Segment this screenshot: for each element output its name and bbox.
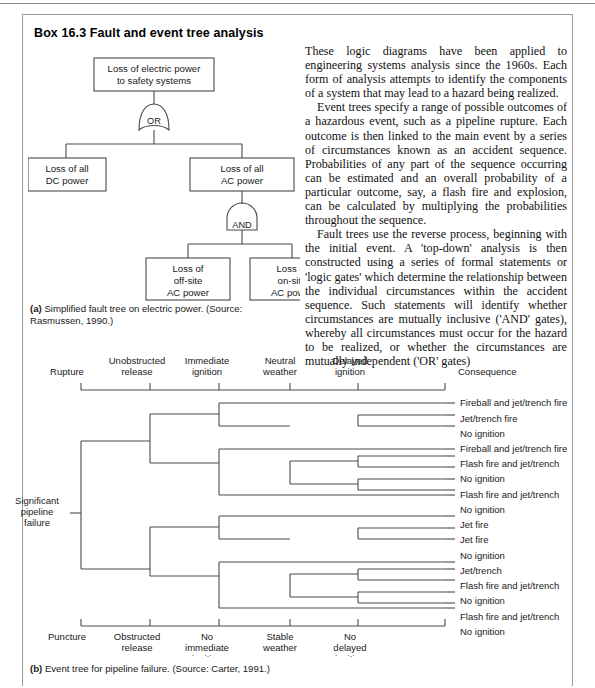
event-tree-bottom-heading-2-line1: Obstructed: [114, 631, 160, 642]
event-tree-bottom-heading-4-line1: Stable: [267, 631, 294, 642]
event-tree-consequence-11: No ignition: [460, 550, 505, 561]
prose-paragraph-2: Event trees specify a range of possible …: [305, 100, 567, 227]
event-tree-bottom-heading-5-line1: No: [344, 631, 356, 642]
event-tree-top-scale: [81, 383, 445, 390]
figure-b-caption-text: Event tree for pipeline failure. (Source…: [45, 663, 270, 674]
fault-node-top-line1: Loss of electric power: [108, 63, 202, 74]
event-tree-consequence-15: Flash fire and jet/trench: [460, 611, 559, 622]
event-tree-bottom-heading-3-line2: immediate: [185, 642, 229, 653]
fault-node-offsite-line2: off-site: [174, 275, 203, 286]
event-tree-root-label-line2: pipeline: [21, 506, 54, 517]
top-rule: [0, 3, 595, 4]
fault-node-offsite-line1: Loss of: [173, 263, 204, 274]
event-tree-consequence-4: Fireball and jet/trench fire: [460, 443, 567, 454]
event-tree-bottom-heading-2-line2: release: [121, 642, 152, 653]
fault-node-onsite-line3: AC power: [271, 287, 300, 298]
event-tree-bottom-heading-3-line3: ignition: [192, 653, 222, 657]
figure-a-marker: (a): [30, 303, 42, 314]
figure-b-caption: (b) Event tree for pipeline failure. (So…: [30, 663, 450, 675]
and-gate-label: AND: [232, 220, 252, 230]
prose-column: These logic diagrams have been applied t…: [305, 44, 567, 368]
event-tree-consequence-5: Flash fire and jet/trench: [460, 458, 559, 469]
box-title: Box 16.3 Fault and event tree analysis: [34, 26, 264, 40]
event-tree-consequence-2: Jet/trench fire: [460, 413, 518, 424]
event-tree-bottom-heading-3-line1: No: [201, 631, 213, 642]
event-tree-bottom-heading-4-line2: weather: [262, 642, 297, 653]
or-gate-label: OR: [147, 116, 161, 126]
fault-node-top-line2: to safety systems: [117, 75, 191, 86]
event-tree-root-label-line1: Significant: [15, 495, 59, 506]
event-tree-diagram: Rupture Unobstructed release Immediate i…: [0, 352, 595, 657]
event-tree-consequence-10: Jet fire: [460, 534, 489, 545]
event-tree-top-heading-4-line1: Neutral: [265, 355, 296, 366]
event-tree-branches: [70, 403, 455, 608]
event-tree-top-heading-2-line2: release: [121, 366, 152, 377]
fault-node-offsite-line3: AC power: [167, 287, 210, 298]
event-tree-top-heading-6-line1: Consequence: [458, 366, 517, 377]
fault-node-onsite-line2: on-site: [278, 275, 300, 286]
event-tree-top-heading-5-line1: Delayed: [333, 355, 368, 366]
page-root: Box 16.3 Fault and event tree analysis T…: [0, 0, 595, 688]
fault-node-dc-line2: DC power: [46, 175, 89, 186]
event-tree-top-heading-5-line2: ignition: [335, 366, 365, 377]
event-tree-bottom-scale: [81, 619, 445, 626]
event-tree-consequence-14: No ignition: [460, 595, 505, 606]
event-tree-root-label-line3: failure: [24, 517, 50, 528]
figure-a-caption: (a) Simplified fault tree on electric po…: [30, 303, 292, 328]
fault-node-ac-line2: AC power: [221, 175, 264, 186]
event-tree-consequence-13: Flash fire and jet/trench: [460, 580, 559, 591]
figure-a-caption-text: Simplified fault tree on electric power.…: [30, 303, 242, 326]
figure-b-marker: (b): [30, 663, 42, 674]
event-tree-consequence-1: Fireball and jet/trench fire: [460, 397, 567, 408]
event-tree-bottom-heading-1-line1: Puncture: [48, 631, 86, 642]
event-tree-top-heading-2-line1: Unobstructed: [109, 355, 166, 366]
event-tree-top-heading-1-line1: Rupture: [50, 366, 84, 377]
event-tree-top-heading-3-line2: ignition: [192, 366, 222, 377]
event-tree-bottom-heading-5-line3: ignition: [335, 653, 365, 657]
event-tree-consequence-7: Flash fire and jet/trench: [460, 489, 559, 500]
event-tree-consequence-8: No ignition: [460, 504, 505, 515]
prose-paragraph-3: Fault trees use the reverse process, beg…: [305, 227, 567, 368]
event-tree-top-heading-4-line2: weather: [262, 366, 297, 377]
fault-tree-svg: Loss of electric power to safety systems…: [28, 52, 300, 304]
event-tree-consequence-16: No ignition: [460, 626, 505, 637]
event-tree-consequence-12: Jet/trench: [460, 565, 502, 576]
prose-paragraph-1: These logic diagrams have been applied t…: [305, 44, 567, 100]
event-tree-consequence-3: No ignition: [460, 428, 505, 439]
fault-node-dc-line1: Loss of all: [45, 163, 88, 174]
event-tree-consequence-6: No ignition: [460, 473, 505, 484]
event-tree-top-heading-3-line1: Immediate: [185, 355, 229, 366]
fault-node-onsite-line1: Loss of: [277, 263, 300, 274]
event-tree-bottom-heading-5-line2: delayed: [333, 642, 366, 653]
event-tree-svg: Rupture Unobstructed release Immediate i…: [0, 352, 595, 657]
fault-node-ac-line1: Loss of all: [220, 163, 263, 174]
event-tree-consequence-9: Jet fire: [460, 519, 489, 530]
fault-tree-diagram: Loss of electric power to safety systems…: [28, 52, 300, 302]
